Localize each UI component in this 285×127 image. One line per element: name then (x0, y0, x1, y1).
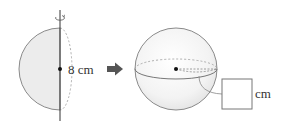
sphere-center-dot (174, 67, 178, 71)
sphere-figure (135, 28, 222, 110)
semicircle-figure: 8 cm (19, 10, 94, 121)
diameter-label: 8 cm (68, 62, 94, 77)
radius-answer-box[interactable] (222, 79, 252, 109)
semicircle-shape (19, 28, 60, 110)
diagram-canvas: 8 cm cm (0, 0, 285, 127)
unit-label: cm (255, 86, 271, 101)
right-arrow-icon (107, 63, 123, 76)
center-dot (58, 67, 62, 71)
